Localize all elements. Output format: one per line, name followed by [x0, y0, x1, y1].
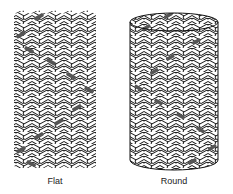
round-label: Round — [144, 176, 204, 186]
round-braid — [128, 8, 220, 183]
flat-label: Flat — [25, 176, 85, 186]
flat-braid — [10, 8, 100, 173]
flat-braid-diagram — [0, 0, 233, 194]
